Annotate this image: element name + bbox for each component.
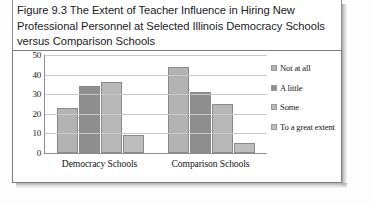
plot-area (44, 55, 267, 154)
gridline (45, 94, 267, 95)
legend-swatch-icon (271, 124, 277, 130)
bar-groups (45, 55, 267, 153)
figure-root: Figure 9.3 The Extent of Teacher Influen… (0, 0, 370, 205)
chart-legend: Not at allA littleSomeTo a great extent (271, 63, 339, 141)
legend-item-label: Not at all (280, 63, 310, 73)
bar (168, 67, 189, 153)
bar (79, 86, 100, 153)
y-tick-label: 0 (19, 148, 41, 158)
legend-swatch-icon (271, 85, 277, 91)
gridline (45, 75, 267, 76)
bar (123, 135, 144, 153)
y-tick-label: 50 (19, 50, 41, 60)
y-tick-label: 30 (19, 89, 41, 99)
gridline (45, 55, 267, 56)
chart-plot-wrapper: 01020304050 Democracy SchoolsComparison … (13, 51, 341, 182)
legend-item[interactable]: Some (271, 102, 339, 112)
legend-swatch-icon (271, 65, 277, 71)
bar-group (156, 55, 267, 153)
page-shadow-right (342, 4, 347, 187)
bar (234, 143, 255, 153)
y-tick-label: 20 (19, 109, 41, 119)
y-tick-label: 10 (19, 128, 41, 138)
page-shadow-bottom (16, 183, 347, 188)
y-axis: 01020304050 (19, 55, 43, 153)
legend-item[interactable]: Not at all (271, 63, 339, 73)
legend-item-label: To a great extent (280, 122, 335, 132)
x-axis-labels: Democracy SchoolsComparison Schools (44, 155, 266, 173)
bar (212, 104, 233, 153)
figure-caption-text: Figure 9.3 The Extent of Teacher Influen… (17, 3, 335, 50)
bar-group (45, 55, 156, 153)
gridline (45, 114, 267, 115)
legend-swatch-icon (271, 104, 277, 110)
legend-item[interactable]: To a great extent (271, 122, 339, 132)
y-tick-label: 40 (19, 70, 41, 80)
x-axis-label: Democracy Schools (44, 155, 155, 173)
figure-caption: Figure 9.3 The Extent of Teacher Influen… (12, 0, 342, 50)
legend-item[interactable]: A little (271, 83, 339, 93)
gridline (45, 133, 267, 134)
bar (101, 82, 122, 153)
legend-item-label: A little (280, 83, 302, 93)
bar (190, 92, 211, 153)
legend-item-label: Some (280, 102, 299, 112)
chart-panel: 01020304050 Democracy SchoolsComparison … (12, 50, 342, 183)
x-axis-label: Comparison Schools (155, 155, 266, 173)
